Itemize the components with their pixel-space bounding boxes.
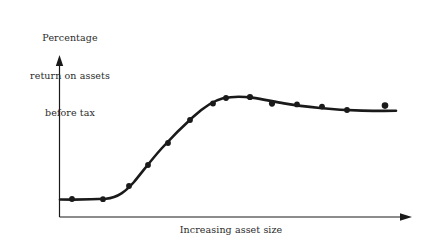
data-point [145, 162, 151, 168]
data-point [269, 101, 275, 107]
data-point [382, 102, 389, 109]
chart-figure: Percentage return on assets before tax I… [0, 0, 429, 248]
data-point [126, 183, 132, 189]
data-point [344, 107, 350, 113]
data-point [294, 102, 300, 108]
data-point [319, 104, 325, 110]
data-point [69, 196, 75, 202]
x-axis-arrowhead [400, 213, 412, 221]
data-point [247, 94, 253, 100]
data-point [210, 101, 216, 107]
data-point [100, 196, 106, 202]
data-point [187, 117, 193, 123]
x-axis-label: Increasing asset size [156, 224, 306, 237]
data-point [165, 140, 171, 146]
y-axis-label-line2: return on assets [27, 70, 113, 83]
y-axis-label-line3: before tax [27, 107, 113, 120]
data-point [223, 95, 229, 101]
y-axis-label-line1: Percentage [27, 32, 113, 45]
y-axis-label: Percentage return on assets before tax [27, 7, 113, 145]
